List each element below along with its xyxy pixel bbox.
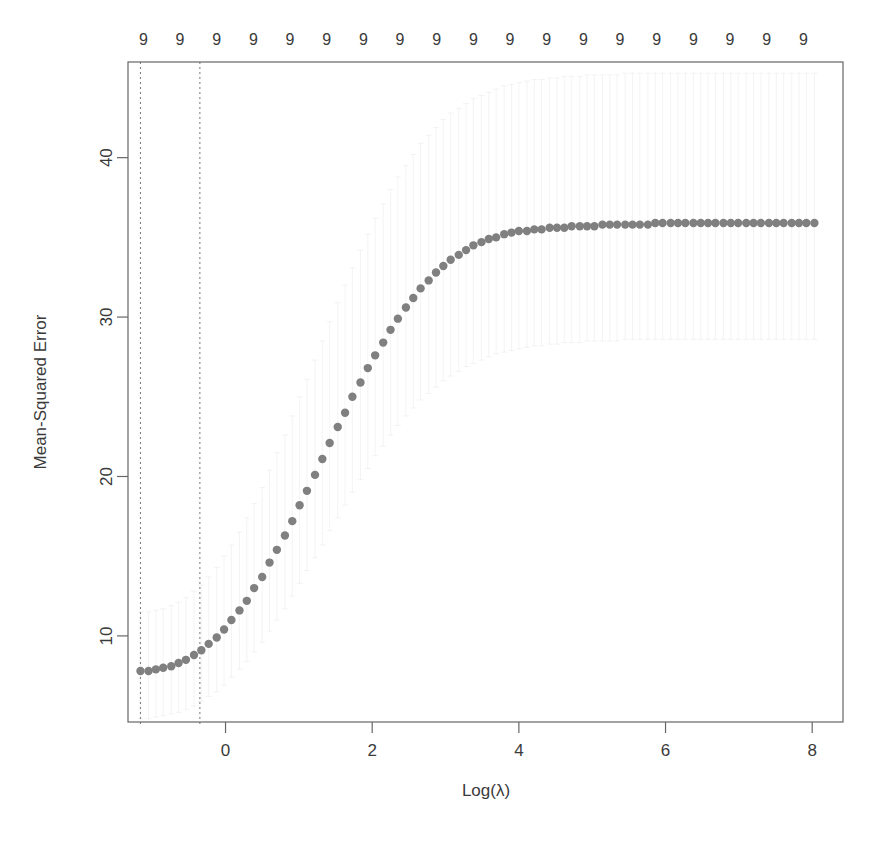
mse-point (545, 224, 553, 232)
mse-point (394, 314, 402, 322)
mse-point (628, 220, 636, 228)
mse-point (311, 471, 319, 479)
mse-point (432, 268, 440, 276)
mse-point (167, 662, 175, 670)
mse-point (152, 665, 160, 673)
mse-point (159, 664, 167, 672)
y-axis: 10203040 (97, 148, 128, 645)
mse-point (265, 558, 273, 566)
x-tick-label: 8 (807, 741, 816, 760)
mse-point (787, 219, 795, 227)
mse-point (651, 219, 659, 227)
mse-point (590, 222, 598, 230)
mse-point (704, 219, 712, 227)
error-bars-group (137, 73, 817, 719)
mse-point (197, 646, 205, 654)
mse-point (424, 276, 432, 284)
mse-point (658, 219, 666, 227)
top-axis-label: 9 (396, 31, 405, 48)
y-tick-label: 30 (97, 308, 116, 327)
mse-point (613, 220, 621, 228)
mse-point (213, 633, 221, 641)
top-axis-label: 9 (616, 31, 625, 48)
mse-point (523, 227, 531, 235)
mse-point (553, 224, 561, 232)
mse-point (802, 219, 810, 227)
mse-point (477, 238, 485, 246)
top-axis-label: 9 (726, 31, 735, 48)
plot-frame-rect (128, 62, 843, 722)
mse-point (711, 219, 719, 227)
y-tick-label: 10 (97, 626, 116, 645)
mse-point (334, 423, 342, 431)
top-axis-label: 9 (212, 31, 221, 48)
mse-point (409, 294, 417, 302)
mse-point (288, 517, 296, 525)
y-tick-label: 20 (97, 467, 116, 486)
mse-point (455, 251, 463, 259)
top-axis-label: 9 (542, 31, 551, 48)
mse-point (644, 220, 652, 228)
x-axis-label: Log(λ) (462, 781, 510, 800)
top-axis-label: 9 (432, 31, 441, 48)
mse-point (537, 225, 545, 233)
mse-point (462, 246, 470, 254)
plot-canvas: 02468 10203040 9999999999999999999 Log(λ… (0, 0, 872, 844)
top-axis-label: 9 (689, 31, 698, 48)
top-axis-label: 9 (762, 31, 771, 48)
x-tick-label: 2 (367, 741, 376, 760)
mse-point (621, 220, 629, 228)
x-tick-label: 4 (514, 741, 523, 760)
top-axis-label: 9 (799, 31, 808, 48)
mse-point (757, 219, 765, 227)
top-axis-label: 9 (506, 31, 515, 48)
y-tick-label: 40 (97, 148, 116, 167)
mse-point (190, 651, 198, 659)
top-axis-label: 9 (359, 31, 368, 48)
mse-point (681, 219, 689, 227)
mse-point (136, 667, 144, 675)
x-axis: 02468 (221, 722, 817, 760)
mse-point (606, 220, 614, 228)
mse-point (273, 546, 281, 554)
mse-point (402, 303, 410, 311)
mse-point (446, 255, 454, 263)
mse-point (386, 326, 394, 334)
mse-point (697, 219, 705, 227)
mse-point (227, 616, 235, 624)
top-axis-label: 9 (176, 31, 185, 48)
mse-point (734, 219, 742, 227)
mse-point (243, 597, 251, 605)
x-tick-label: 0 (221, 741, 230, 760)
mse-point (235, 606, 243, 614)
mse-point (144, 667, 152, 675)
mse-point (371, 351, 379, 359)
mse-point (281, 531, 289, 539)
mse-point (303, 487, 311, 495)
mse-point (810, 219, 818, 227)
cv-glmnet-plot-figure: 02468 10203040 9999999999999999999 Log(λ… (0, 0, 872, 844)
mse-point (341, 409, 349, 417)
top-axis-label: 9 (286, 31, 295, 48)
mse-point (250, 584, 258, 592)
mse-point (689, 219, 697, 227)
top-axis-nonzero-counts: 9999999999999999999 (139, 31, 808, 48)
mse-point (507, 228, 515, 236)
mse-point (318, 455, 326, 463)
mse-point (500, 230, 508, 238)
mse-point (666, 219, 674, 227)
mse-point (560, 224, 568, 232)
mse-point (348, 393, 356, 401)
mse-point (258, 573, 266, 581)
mse-point (779, 219, 787, 227)
mse-point (485, 235, 493, 243)
plot-frame (128, 62, 843, 722)
top-axis-label: 9 (652, 31, 661, 48)
mse-point (204, 640, 212, 648)
mse-point (636, 220, 644, 228)
mse-point (576, 222, 584, 230)
mse-point (742, 219, 750, 227)
x-tick-label: 6 (661, 741, 670, 760)
mse-point (325, 439, 333, 447)
mse-point (439, 262, 447, 270)
